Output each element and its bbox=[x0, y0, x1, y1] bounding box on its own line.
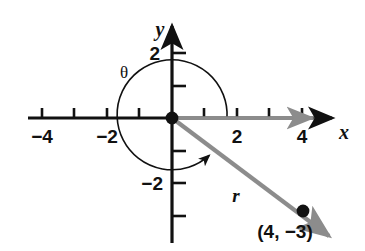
x-axis-label: x bbox=[338, 121, 349, 143]
y-tick-label--2: −2 bbox=[141, 173, 163, 194]
r-label: r bbox=[232, 185, 240, 206]
x-tick-label--2: −2 bbox=[96, 126, 118, 147]
x-tick-label-4: 4 bbox=[297, 126, 308, 147]
coordinate-plane-svg: y x −4 −2 2 4 2 −2 θ r (4, −3) bbox=[0, 0, 365, 251]
x-tick-label-2: 2 bbox=[232, 126, 243, 147]
y-axis-label: y bbox=[154, 18, 165, 41]
data-point-4-neg3 bbox=[297, 205, 310, 218]
y-axis-group bbox=[172, 26, 186, 243]
polar-angle-diagram: y x −4 −2 2 4 2 −2 θ r (4, −3) bbox=[0, 0, 365, 251]
theta-label: θ bbox=[120, 63, 128, 82]
point-coordinate-label: (4, −3) bbox=[257, 221, 312, 242]
origin-point bbox=[166, 112, 179, 125]
y-tick-label-2: 2 bbox=[149, 43, 160, 64]
x-tick-label--4: −4 bbox=[31, 126, 53, 147]
